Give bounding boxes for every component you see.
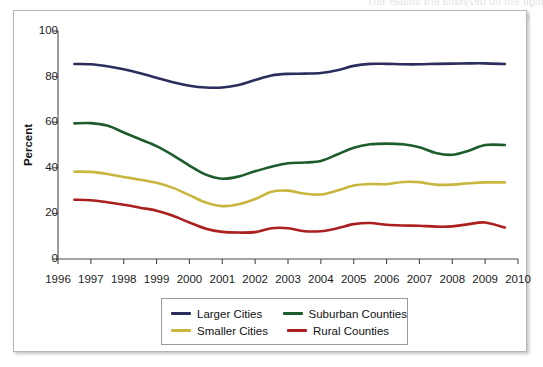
legend-entry-suburban-counties: Suburban Counties	[283, 305, 407, 322]
x-axis-tick-label: 2010	[498, 273, 538, 285]
chart-figure-frame: 020406080100 199619971998199920002001200…	[13, 10, 527, 352]
series-line-smaller-cities	[74, 172, 504, 207]
legend-label: Suburban Counties	[309, 308, 407, 320]
series-line-rural-counties	[74, 200, 504, 233]
legend-row: Larger Cities Suburban Counties	[171, 305, 407, 322]
legend-swatch-icon	[287, 329, 307, 332]
series-line-larger-cities	[74, 63, 504, 87]
legend-label: Larger Cities	[197, 308, 262, 320]
y-axis-tick-label: 60	[45, 116, 58, 128]
legend-entry-rural-counties: Rural Counties	[287, 322, 389, 339]
x-axis-tick-labels: 1996199719981999200020012002200320042005…	[14, 273, 528, 291]
y-axis-tick-label: 20	[45, 207, 58, 219]
legend-swatch-icon	[171, 312, 191, 315]
y-axis-tick-label: 40	[45, 162, 58, 174]
legend-swatch-icon	[171, 329, 191, 332]
series-line-suburban-counties	[74, 123, 504, 179]
y-axis-tick-label: 0	[52, 253, 58, 265]
legend-label: Smaller Cities	[197, 325, 268, 337]
y-axis-tick-label: 100	[39, 25, 58, 37]
y-axis-tick-labels: 020406080100	[14, 11, 58, 353]
legend-label: Rural Counties	[313, 325, 389, 337]
y-axis-title: Percent	[22, 100, 34, 190]
legend-row: Smaller Cities Rural Counties	[171, 322, 407, 339]
legend-swatch-icon	[283, 312, 303, 315]
legend-entry-larger-cities: Larger Cities	[171, 305, 283, 322]
chart-series	[74, 63, 504, 232]
y-axis-tick-label: 80	[45, 71, 58, 83]
chart-legend: Larger Cities Suburban Counties Smaller …	[161, 298, 408, 345]
legend-entry-smaller-cities: Smaller Cities	[171, 322, 287, 339]
